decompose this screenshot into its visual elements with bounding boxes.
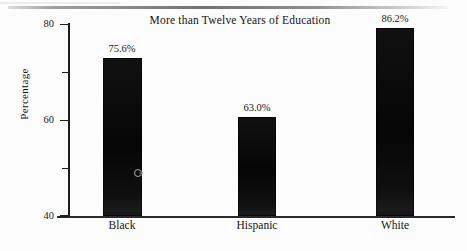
scan-artifact-speck-tail <box>139 172 143 174</box>
y-tick-label-40: 40 <box>28 210 54 221</box>
y-tick-40 <box>60 215 69 217</box>
y-tick-70-minor <box>62 72 69 74</box>
bar-value-black: 75.6% <box>82 43 162 54</box>
category-label-white: White <box>355 219 435 231</box>
scan-artifact-band-secondary <box>0 2 120 4</box>
category-label-black: Black <box>82 219 162 231</box>
chart-title: More than Twelve Years of Education <box>105 14 375 26</box>
category-label-hispanic: Hispanic <box>212 219 302 231</box>
scan-artifact-band <box>8 6 448 9</box>
y-tick-50-minor <box>62 168 69 170</box>
y-tick-60 <box>60 120 69 122</box>
bar-value-white: 86.2% <box>355 13 435 24</box>
bar-black <box>103 58 142 216</box>
y-tick-80 <box>60 24 69 26</box>
bar-hispanic <box>238 117 276 216</box>
bar-white <box>376 28 414 216</box>
y-tick-label-80: 80 <box>28 18 54 29</box>
bar-value-hispanic: 63.0% <box>217 102 297 113</box>
y-tick-label-60: 60 <box>28 114 54 125</box>
bar-chart-figure: More than Twelve Years of Education 80 6… <box>0 0 467 251</box>
y-axis-title: Percentage <box>18 58 30 130</box>
